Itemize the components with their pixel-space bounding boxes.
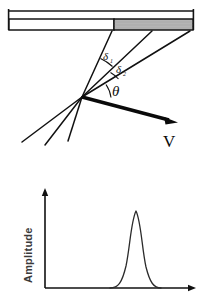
theta-label: θ [112, 83, 120, 99]
delta1-label: δ [103, 50, 109, 62]
transducer-inactive-segment [9, 19, 114, 30]
theta-arc [106, 85, 111, 98]
delta2-subscript: 2 [123, 71, 126, 77]
amplitude-curve [110, 211, 161, 288]
upper-ray-group [82, 31, 190, 97]
array-panel: δ 1 δ 2 θ V [8, 9, 194, 151]
delta1-subscript: 1 [110, 58, 113, 64]
lower-ray-3 [68, 97, 82, 141]
diagram-canvas: δ 1 δ 2 θ V Amplitude [0, 0, 202, 303]
figure-root: δ 1 δ 2 θ V Amplitude [0, 0, 202, 303]
velocity-label: V [163, 132, 176, 151]
delta2-label: δ [116, 63, 122, 75]
steered-beam-vector [82, 97, 178, 125]
y-axis-arrowhead [42, 188, 48, 196]
x-axis-arrowhead [188, 285, 196, 291]
transducer-active-segment [114, 19, 193, 30]
plot-panel: Amplitude [22, 188, 196, 291]
beam-vector-arrowhead [164, 117, 178, 125]
y-axis-title: Amplitude [22, 227, 34, 283]
lower-ray-group [22, 97, 82, 145]
upper-ray-3 [82, 31, 190, 97]
beam-vector-shaft [82, 97, 169, 120]
